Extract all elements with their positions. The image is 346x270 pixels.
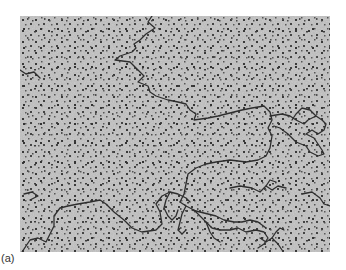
panel-label: (a): [1, 252, 14, 264]
micrograph-image: [20, 16, 330, 252]
electron-micrograph: [20, 16, 330, 252]
